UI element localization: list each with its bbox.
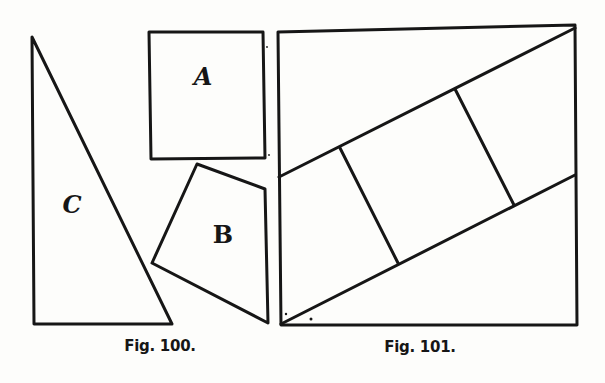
label-a: A bbox=[194, 65, 213, 89]
lower-diagonal bbox=[281, 175, 575, 324]
speck-dot bbox=[268, 154, 270, 156]
label-c: C bbox=[62, 193, 81, 217]
upper-diagonal bbox=[279, 28, 575, 177]
caption-fig-101: Fig. 101. bbox=[384, 340, 455, 355]
diagram-canvas bbox=[0, 0, 605, 383]
large-square bbox=[278, 25, 577, 325]
quadrilateral-b bbox=[152, 164, 268, 323]
speck-dot bbox=[266, 46, 268, 48]
figure-100 bbox=[32, 32, 270, 324]
cross-line-2 bbox=[455, 89, 514, 205]
square-a bbox=[149, 32, 265, 159]
cross-line-1 bbox=[340, 148, 398, 263]
figure-101 bbox=[278, 25, 577, 325]
speck-dot bbox=[310, 318, 313, 321]
speck-dot bbox=[285, 313, 287, 315]
caption-fig-100: Fig. 100. bbox=[124, 339, 195, 354]
label-b: B bbox=[213, 223, 233, 247]
